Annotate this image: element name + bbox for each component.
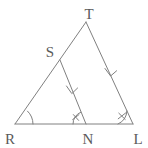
geometry-canvas: T S R N L xyxy=(0,0,148,148)
angle-mark-N xyxy=(73,112,81,124)
angle-mark-L xyxy=(118,111,127,124)
geometry-figure: T S R N L xyxy=(0,0,148,148)
segment-TL xyxy=(86,22,133,124)
vertex-label-N: N xyxy=(83,131,94,147)
vertex-label-S: S xyxy=(46,44,54,60)
vertex-label-T: T xyxy=(84,6,93,22)
angle-arc-icon xyxy=(28,111,33,124)
vertex-label-L: L xyxy=(133,131,142,147)
segment-RT xyxy=(15,22,86,124)
triangle-outline xyxy=(15,22,133,124)
angle-mark-R xyxy=(28,111,33,124)
vertex-label-R: R xyxy=(5,131,15,147)
